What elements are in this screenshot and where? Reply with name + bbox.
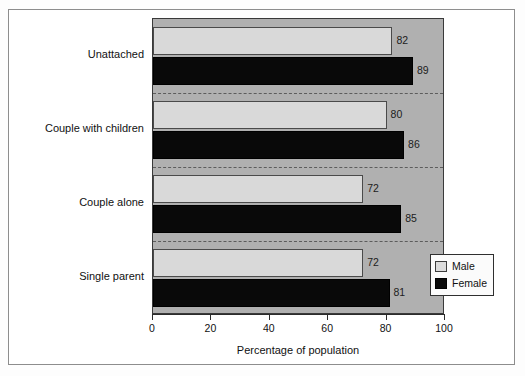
category-label: Couple with children [0,123,144,134]
legend-swatch-female-icon [435,278,447,289]
x-axis-line [152,314,444,315]
legend-item-male[interactable]: Male [435,258,490,275]
bar-female [153,57,413,85]
bar-value-label: 81 [394,287,406,298]
x-tick-label: 80 [380,323,392,334]
x-tick-mark [444,314,445,320]
legend-label-male: Male [452,261,475,272]
bars-layer [153,19,443,313]
x-tick-mark [152,314,153,320]
x-tick-mark [210,314,211,320]
group-divider-line [153,93,443,94]
category-label: Unattached [0,49,144,60]
x-tick-label: 20 [205,323,217,334]
legend-label-female: Female [452,278,487,289]
x-tick-mark [269,314,270,320]
bar-value-label: 86 [408,139,420,150]
chart-figure: UnattachedCouple with childrenCouple alo… [0,0,525,376]
bar-value-label: 72 [367,183,379,194]
plot-area [152,18,444,314]
bar-value-label: 72 [367,257,379,268]
bar-female [153,279,390,307]
bar-male [153,101,387,129]
x-tick-mark [327,314,328,320]
bar-value-label: 85 [405,213,417,224]
x-axis-title: Percentage of population [152,344,444,356]
bar-value-label: 80 [391,109,403,120]
legend-swatch-male-icon [435,261,447,272]
bar-value-label: 89 [417,65,429,76]
x-tick-mark [386,314,387,320]
bar-male [153,175,363,203]
bar-value-label: 82 [396,35,408,46]
x-tick-label: 40 [263,323,275,334]
category-label: Couple alone [0,197,144,208]
group-divider-line [153,167,443,168]
x-tick-label: 100 [435,323,453,334]
x-tick-label: 0 [149,323,155,334]
bar-female [153,205,401,233]
category-label: Single parent [0,271,144,282]
legend-item-female[interactable]: Female [435,275,490,292]
x-tick-label: 60 [321,323,333,334]
group-divider-line [153,241,443,242]
bar-male [153,27,392,55]
bar-male [153,249,363,277]
bar-female [153,131,404,159]
legend[interactable]: Male Female [430,254,494,296]
